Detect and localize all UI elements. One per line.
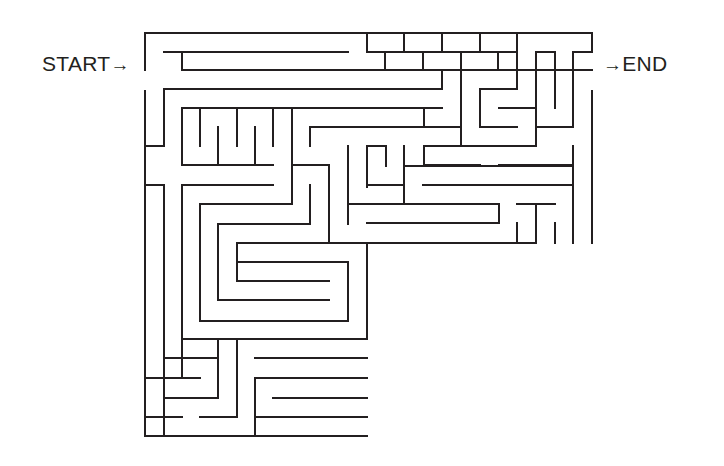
- maze: [0, 0, 724, 466]
